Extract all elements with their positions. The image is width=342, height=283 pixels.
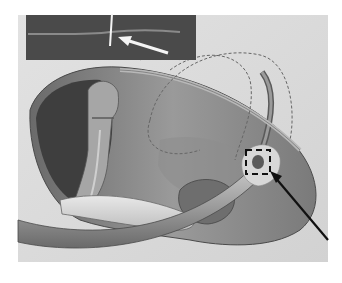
magnified-view [26,14,196,60]
illustration-canvas [0,0,342,283]
tube-end [252,155,264,169]
medical-illustration [0,0,342,283]
